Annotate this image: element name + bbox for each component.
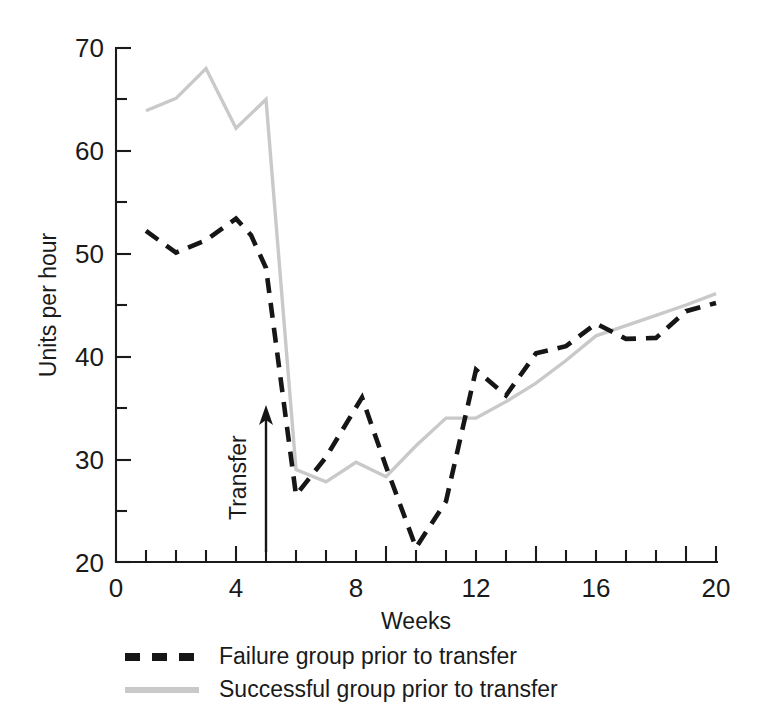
transfer-annotation-label: Transfer: [225, 435, 251, 520]
x-axis-title: Weeks: [381, 608, 451, 634]
x-tick-label-8: 8: [349, 573, 363, 603]
series-line-successful-group: [146, 69, 716, 482]
legend-label-successful-group: Successful group prior to transfer: [219, 678, 558, 701]
y-tick-label-20: 20: [75, 548, 104, 578]
legend-item-failure-group: Failure group prior to transfer: [123, 640, 643, 673]
x-tick-label-20: 20: [702, 573, 731, 603]
legend-swatch-dashed-line: [123, 650, 201, 664]
y-tick-label-30: 30: [75, 445, 104, 475]
x-axis-ticks: [116, 546, 716, 562]
axes: [116, 48, 717, 562]
transfer-annotation: Transfer: [225, 405, 273, 552]
y-tick-label-50: 50: [75, 239, 104, 269]
y-tick-label-60: 60: [75, 136, 104, 166]
y-tick-label-70: 70: [75, 33, 104, 63]
x-tick-label-12: 12: [462, 573, 491, 603]
chart-figure: 70 60 50 40 30 20 0 4 8 12 16 20 Weeks U…: [0, 0, 766, 723]
legend-swatch-solid-line: [123, 683, 201, 697]
y-axis-title: Units per hour: [35, 232, 61, 377]
x-tick-label-4: 4: [229, 573, 243, 603]
x-tick-label-0: 0: [109, 573, 123, 603]
chart-legend: Failure group prior to transfer Successf…: [123, 640, 643, 706]
x-tick-label-16: 16: [582, 573, 611, 603]
line-chart-plot: 70 60 50 40 30 20 0 4 8 12 16 20 Weeks U…: [0, 0, 766, 723]
legend-label-failure-group: Failure group prior to transfer: [219, 645, 517, 668]
y-axis-ticks: [116, 48, 131, 562]
legend-item-successful-group: Successful group prior to transfer: [123, 673, 643, 706]
y-tick-label-40: 40: [75, 342, 104, 372]
